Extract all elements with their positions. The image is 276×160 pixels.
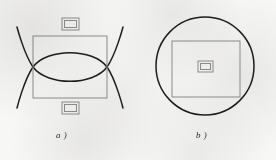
center-nested-rect-b — [198, 61, 213, 72]
bottom-nested-rect-a — [62, 102, 79, 114]
panel-b-caption: b ) — [196, 130, 207, 140]
panel-b — [156, 17, 254, 115]
panel-a-caption: a ) — [56, 130, 67, 140]
figure-canvas — [0, 0, 276, 160]
outer-circle-b — [156, 17, 254, 115]
main-rectangle-a — [33, 36, 107, 98]
top-nested-rect-a — [62, 18, 79, 30]
figure-page: a ) b ) — [0, 0, 276, 160]
panel-a — [17, 18, 123, 114]
